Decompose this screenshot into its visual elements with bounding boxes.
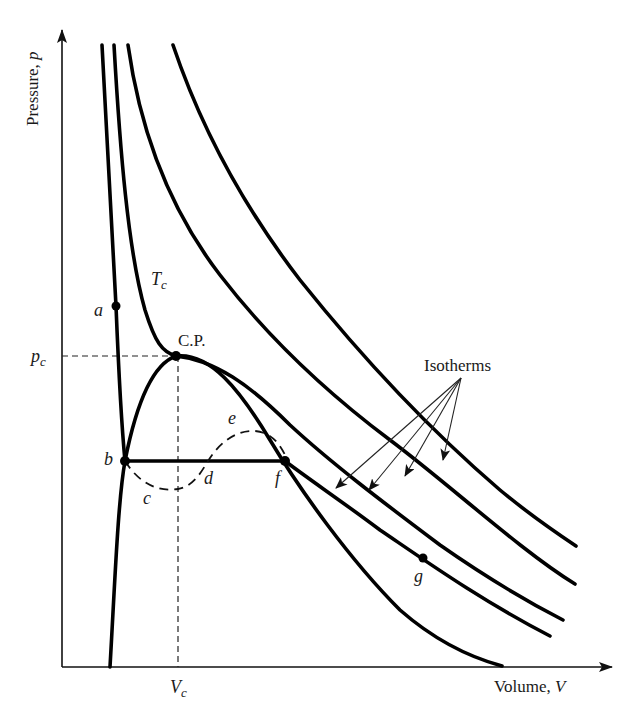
coexistence-dome bbox=[110, 356, 502, 667]
isotherm-high-2 bbox=[128, 45, 575, 584]
critical-point-marker bbox=[171, 351, 181, 361]
point-a-marker bbox=[112, 302, 121, 311]
point-a-label: a bbox=[94, 300, 103, 320]
point-g-label: g bbox=[414, 566, 423, 586]
point-e-label: e bbox=[228, 408, 236, 428]
isotherm-subcritical-liquid bbox=[102, 45, 125, 461]
point-d-label: d bbox=[204, 468, 214, 488]
critical-point-label: C.P. bbox=[178, 331, 205, 350]
point-c-label: c bbox=[143, 488, 151, 508]
pc-tick-label: pc bbox=[29, 346, 46, 369]
isotherm-high-1 bbox=[173, 45, 576, 546]
vc-tick-label: Vc bbox=[170, 677, 187, 700]
isotherms-callout-label: Isotherms bbox=[424, 356, 491, 375]
point-g-marker bbox=[419, 554, 428, 563]
isotherms-pointer-3 bbox=[405, 378, 461, 476]
point-b-label: b bbox=[104, 449, 113, 469]
point-b-marker bbox=[120, 456, 130, 466]
isotherm-subcritical-vapor bbox=[285, 461, 550, 636]
x-axis-label: Volume, V bbox=[494, 677, 568, 696]
point-f-label: f bbox=[275, 468, 283, 488]
y-axis-label: Pressure, p bbox=[23, 51, 42, 126]
point-f-marker bbox=[280, 456, 290, 466]
pv-diagram: Pressure, p Volume, V pc Vc Tc C.P. Isot… bbox=[0, 0, 638, 720]
critical-isotherm-label: Tc bbox=[151, 269, 167, 292]
